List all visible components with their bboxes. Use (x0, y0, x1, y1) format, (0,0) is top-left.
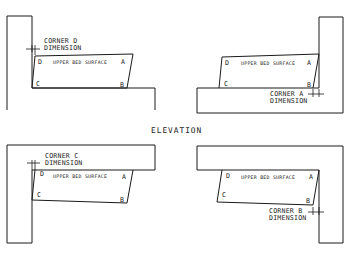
dimension-label: DIMENSION (45, 159, 83, 167)
corner-a: A (309, 173, 313, 181)
panel-top-left: CORNER D DIMENSION D UPPER BED SURFACE A… (7, 16, 155, 110)
corner-d: D (225, 59, 229, 67)
corner-c: C (222, 191, 226, 199)
corner-b: B (306, 197, 310, 205)
panel-top-right: CORNER A DIMENSION D UPPER BED SURFACE A… (197, 17, 343, 113)
corner-c: C (36, 80, 40, 88)
support-frame (197, 146, 343, 243)
panel-bottom-right: CORNER B DIMENSION D UPPER BED SURFACE A… (197, 146, 343, 243)
dimension-label: DIMENSION (269, 214, 307, 222)
corner-c: C (37, 191, 41, 199)
corner-a: A (121, 58, 125, 66)
corner-b: B (120, 196, 124, 204)
corner-b: B (120, 81, 124, 89)
corner-d: D (226, 172, 230, 180)
corner-b: B (307, 81, 311, 89)
corner-a: A (307, 59, 311, 67)
elevation-diagram: CORNER D DIMENSION D UPPER BED SURFACE A… (0, 0, 351, 253)
elevation-title: ELEVATION (151, 126, 202, 135)
upper-bed-surface-label: UPPER BED SURFACE (53, 60, 107, 65)
upper-bed-surface-label: UPPER BED SURFACE (241, 61, 295, 66)
upper-bed-surface-label: UPPER BED SURFACE (241, 175, 295, 180)
panel-bottom-left: CORNER C DIMENSION D UPPER BED SURFACE A… (7, 145, 155, 243)
corner-d: D (38, 58, 42, 66)
corner-c: C (224, 80, 228, 88)
bed-block (219, 54, 319, 88)
corner-d: D (40, 170, 44, 178)
corner-a: A (122, 173, 126, 181)
upper-bed-surface-label: UPPER BED SURFACE (53, 174, 107, 179)
dimension-label: DIMENSION (270, 97, 308, 105)
dimension-label: DIMENSION (44, 44, 82, 52)
